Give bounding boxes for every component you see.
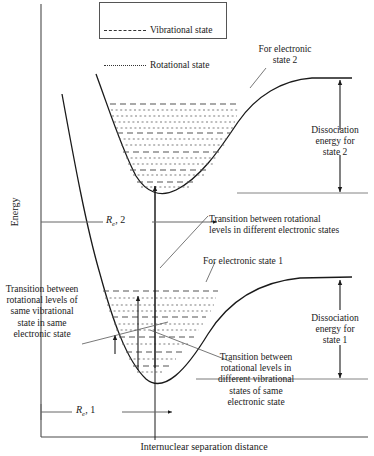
electronic-state-2-label: For electronic state 2 — [244, 44, 326, 66]
legend-item-rotational: Rotational state — [100, 58, 226, 74]
re1-label: Re, 1 — [74, 404, 97, 418]
dotted-line-icon — [104, 65, 146, 66]
transition-same-vibrational-label: Transition between rotational levels of … — [0, 284, 84, 340]
legend-label-rotational: Rotational state — [150, 60, 209, 71]
state1-rotational-levels — [105, 298, 216, 372]
dashed-line-icon — [104, 30, 146, 31]
re2-label: Re, 2 — [104, 214, 127, 228]
dissociation-energy-1-label: Dissociation energy for state 1 — [299, 313, 371, 347]
dissociation-energy-2-label: Dissociation energy for state 2 — [299, 125, 371, 159]
legend-box: Vibrational state Rotational state — [99, 2, 227, 39]
legend-item-vibrational: Vibrational state — [100, 22, 226, 39]
transition-electronic-label: Transition between rotational levels in … — [209, 214, 374, 236]
potential-energy-diagram: Vibrational state Rotational state For e… — [0, 0, 374, 456]
y-axis-label: Energy — [9, 187, 21, 237]
electronic-state-1-label: For electronic state 1 — [203, 256, 323, 267]
re1-measure — [41, 404, 172, 420]
transition-different-vibrational-label: Transition between rotational levels in … — [203, 352, 309, 408]
x-axis-label: Internuclear separation distance — [104, 441, 304, 453]
state1-vibrational-levels — [103, 291, 218, 366]
re2-measure — [41, 200, 217, 240]
legend-label-vibrational: Vibrational state — [150, 25, 212, 36]
